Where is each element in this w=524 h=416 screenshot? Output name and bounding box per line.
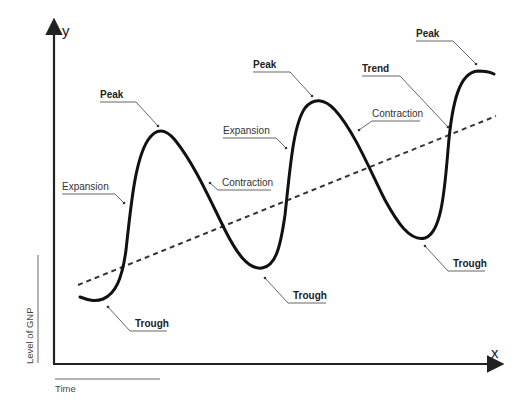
- expansion-2-leader: [223, 138, 286, 148]
- leader-lines: [62, 41, 485, 331]
- y-axis-letter: y: [62, 22, 70, 39]
- business-cycle-diagram: y x Level of GNP Time: [0, 0, 524, 416]
- peak-2-label: Peak: [253, 59, 277, 70]
- y-axis-label: Level of GNP: [24, 308, 35, 365]
- x-axis-label: Time: [55, 383, 76, 394]
- trend-label: Trend: [362, 63, 389, 74]
- expansion-1-label: Expansion: [62, 181, 109, 192]
- peak-2-leader: [253, 72, 312, 96]
- trough-1-label: Trough: [135, 318, 169, 329]
- peak-3-leader: [416, 41, 476, 64]
- peak-1-leader: [100, 102, 158, 126]
- expansion-1-leader: [62, 194, 124, 203]
- contraction-1-label: Contraction: [222, 177, 273, 188]
- expansion-2-label: Expansion: [223, 125, 270, 136]
- trend-leader: [362, 76, 448, 127]
- x-axis-letter: x: [491, 344, 499, 361]
- trough-3-label: Trough: [453, 258, 487, 269]
- contraction-2-leader: [359, 121, 420, 130]
- contraction-2-label: Contraction: [372, 108, 423, 119]
- axes: y x: [53, 22, 500, 364]
- gnp-curve: [80, 71, 494, 300]
- peak-1-label: Peak: [100, 89, 124, 100]
- annotations: Peak Expansion Contraction Trough Expans…: [62, 28, 487, 329]
- peak-3-label: Peak: [416, 28, 440, 39]
- trough-2-label: Trough: [293, 290, 327, 301]
